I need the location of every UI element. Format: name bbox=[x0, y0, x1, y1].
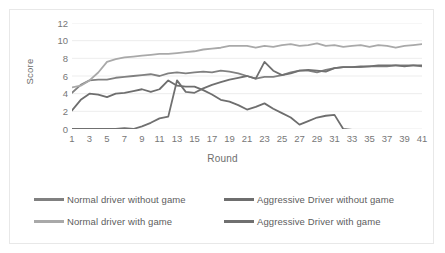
x-axis-tick-label: 37 bbox=[382, 133, 393, 144]
x-axis-tick-label: 29 bbox=[312, 133, 323, 144]
x-axis-tick-label: 19 bbox=[224, 133, 235, 144]
x-axis-tick-label: 17 bbox=[207, 133, 218, 144]
chart-legend: Normal driver without game Normal driver… bbox=[10, 190, 435, 236]
series-line-0 bbox=[72, 65, 422, 92]
legend-item-aggressive-driver-without-game[interactable]: Aggressive Driver without game bbox=[224, 192, 394, 206]
legend-label: Aggressive Driver without game bbox=[257, 194, 394, 205]
x-axis-tick-label: 41 bbox=[417, 133, 428, 144]
x-axis-tick-label: 11 bbox=[155, 133, 165, 144]
x-axis-tick-label: 3 bbox=[87, 133, 92, 144]
x-axis-tick-label: 15 bbox=[189, 133, 200, 144]
x-axis-tick-labels: 1357911131517192123252729313335373941 bbox=[72, 133, 422, 147]
legend-item-normal-driver-without-game[interactable]: Normal driver without game bbox=[34, 192, 186, 206]
y-axis-tick-labels: 121086420 bbox=[46, 19, 68, 133]
x-axis-tick-label: 7 bbox=[122, 133, 127, 144]
legend-swatch-icon bbox=[34, 220, 64, 223]
legend-swatch-icon bbox=[224, 198, 254, 201]
x-axis-tick-label: 25 bbox=[277, 133, 288, 144]
x-axis-title: Round bbox=[10, 153, 435, 164]
legend-label: Aggressive Driver with game bbox=[257, 216, 381, 227]
x-axis-tick-label: 13 bbox=[172, 133, 183, 144]
x-axis-tick-label: 35 bbox=[364, 133, 375, 144]
series-line-2 bbox=[72, 80, 422, 129]
y-axis-tick-label: 4 bbox=[63, 89, 68, 98]
legend-swatch-icon bbox=[34, 198, 64, 201]
x-axis-tick-label: 31 bbox=[329, 133, 340, 144]
series-lines bbox=[72, 43, 422, 129]
series-canvas bbox=[72, 23, 422, 129]
x-axis-tick-label: 9 bbox=[139, 133, 144, 144]
x-axis-tick-label: 33 bbox=[347, 133, 358, 144]
x-axis-tick-label: 1 bbox=[69, 133, 74, 144]
plot-region: Score 121086420 135791113151719212325272… bbox=[10, 10, 435, 160]
series-line-3 bbox=[72, 62, 422, 129]
y-axis-tick-label: 0 bbox=[63, 125, 68, 134]
y-axis-title: Score bbox=[24, 42, 35, 102]
x-axis-tick-label: 5 bbox=[104, 133, 109, 144]
legend-item-normal-driver-with-game[interactable]: Normal driver with game bbox=[34, 214, 172, 228]
legend-label: Normal driver with game bbox=[67, 216, 172, 227]
y-axis-tick-label: 6 bbox=[63, 72, 68, 81]
x-axis-tick-label: 27 bbox=[294, 133, 305, 144]
plot-area bbox=[72, 23, 422, 129]
y-axis-tick-label: 2 bbox=[63, 107, 68, 116]
legend-label: Normal driver without game bbox=[67, 194, 186, 205]
x-axis-tick-label: 23 bbox=[259, 133, 270, 144]
y-axis-tick-label: 8 bbox=[63, 54, 68, 63]
x-axis-tick-label: 39 bbox=[399, 133, 410, 144]
x-axis-tick-label: 21 bbox=[242, 133, 253, 144]
chart-card: Score 121086420 135791113151719212325272… bbox=[9, 9, 434, 244]
legend-swatch-icon bbox=[224, 220, 254, 223]
legend-item-aggressive-driver-with-game[interactable]: Aggressive Driver with game bbox=[224, 214, 381, 228]
y-axis-tick-label: 10 bbox=[57, 36, 68, 45]
y-axis-tick-label: 12 bbox=[57, 19, 68, 28]
